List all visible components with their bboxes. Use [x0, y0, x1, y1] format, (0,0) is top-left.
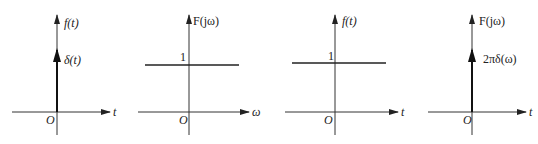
- panel-3-constant-signal: f(t) 1 O t: [285, 14, 405, 135]
- x-axis-label: t: [529, 105, 533, 119]
- y-axis-label: F(jω): [193, 14, 219, 28]
- x-axis-label: t: [113, 105, 117, 119]
- impulse-label: δ(t): [64, 53, 81, 67]
- impulse-label: 2πδ(ω): [483, 52, 517, 66]
- origin-label: O: [46, 113, 55, 127]
- panel-1-impulse-time: f(t) δ(t) O t: [12, 15, 117, 135]
- origin-label: O: [324, 113, 333, 127]
- panel-2-constant-spectrum: F(jω) 1 O ω: [138, 14, 260, 135]
- origin-label: O: [463, 113, 472, 127]
- impulse-arrowhead-icon: [468, 48, 476, 62]
- x-axis-label: ω: [252, 105, 260, 119]
- fourier-pairs-diagram: f(t) δ(t) O t F(jω) 1 O ω f(t) 1 O t F(j…: [0, 0, 538, 144]
- x-axis-label: t: [401, 105, 405, 119]
- level-label: 1: [328, 49, 334, 63]
- origin-label: O: [179, 113, 188, 127]
- level-label: 1: [180, 50, 186, 64]
- y-axis-label: f(t): [64, 16, 79, 30]
- impulse-arrowhead-icon: [53, 48, 61, 62]
- y-axis-label: f(t): [342, 14, 357, 28]
- panel-4-impulse-spectrum: F(jω) 2πδ(ω) O t: [428, 14, 533, 135]
- y-axis-label: F(jω): [479, 14, 505, 28]
